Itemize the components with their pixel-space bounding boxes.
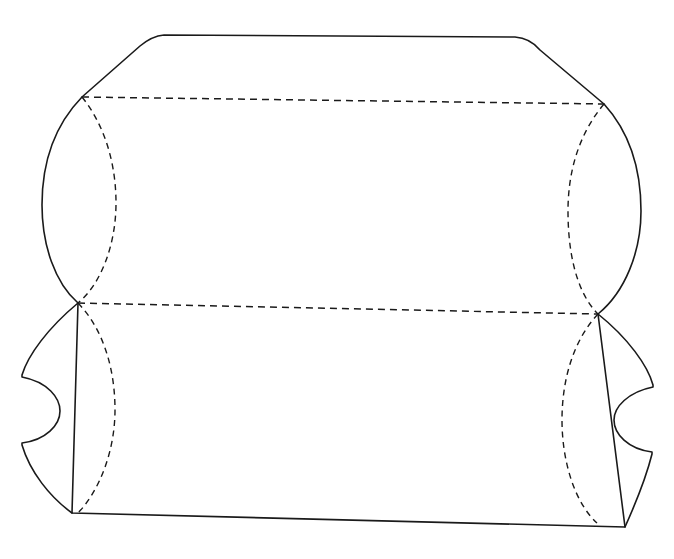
drawing-background bbox=[0, 0, 674, 559]
pillow-box-dieline-drawing: Pillow box dieline Flat technical line d… bbox=[0, 0, 674, 559]
